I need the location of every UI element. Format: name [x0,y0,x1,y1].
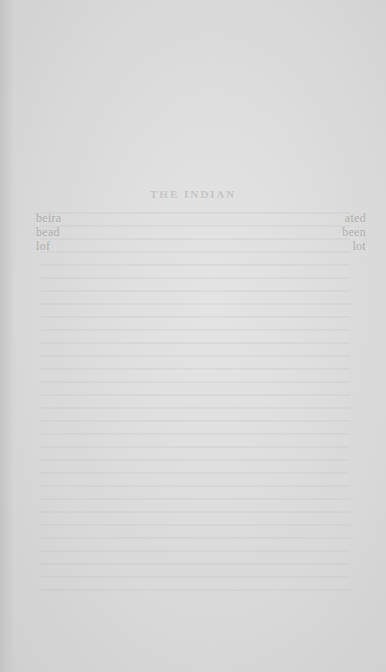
page-edge-shadow [0,0,14,672]
bleed-right-3: lot [352,240,366,253]
scanned-page: THE INDIAN beira bead lof ated been lot [0,0,386,672]
bleed-heading: THE INDIAN [150,188,236,201]
bleed-text-lines [40,212,350,612]
